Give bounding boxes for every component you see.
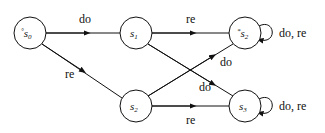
loop-label-s2top: do, re (279, 26, 306, 40)
loop-label-s3: do, re (279, 99, 306, 113)
edge-label-s1-s3: do (199, 80, 211, 94)
state-diagram: °s0 s1 *s2 s2 s3 do re re do do re do, r… (0, 0, 325, 133)
edge-label-s0-s2: re (65, 67, 74, 81)
edge-label-s1-s2top: re (186, 12, 195, 26)
edge-label-s2-s3: re (186, 113, 195, 127)
edge-label-s2-s2top: do (220, 55, 232, 69)
edge-label-s0-s1: do (79, 12, 91, 26)
